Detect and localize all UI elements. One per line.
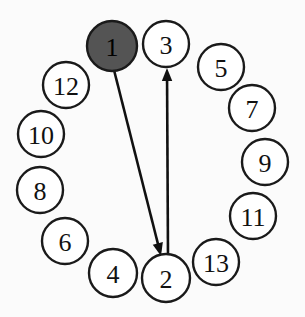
node-label: 13 [203, 249, 229, 278]
node-label: 2 [160, 265, 173, 294]
node-label: 11 [240, 203, 265, 232]
node-label: 5 [215, 54, 228, 83]
edge-1-to-2 [114, 70, 163, 256]
node-label: 4 [107, 260, 120, 289]
node-12[interactable]: 12 [43, 62, 89, 108]
node-2[interactable]: 2 [142, 254, 190, 302]
edges-layer [114, 68, 172, 256]
node-label: 6 [59, 228, 72, 257]
node-3[interactable]: 3 [143, 21, 189, 67]
node-13[interactable]: 13 [193, 239, 239, 285]
node-label: 7 [246, 95, 259, 124]
node-7[interactable]: 7 [229, 85, 275, 131]
node-8[interactable]: 8 [17, 167, 63, 213]
arrowhead-icon [162, 68, 172, 81]
node-10[interactable]: 10 [18, 111, 64, 157]
node-label: 3 [160, 31, 173, 60]
node-11[interactable]: 11 [230, 193, 276, 239]
node-ring-diagram: 12345678910111213 [0, 0, 305, 317]
node-1[interactable]: 1 [87, 21, 137, 71]
edge-line [167, 78, 168, 256]
node-label: 8 [34, 177, 47, 206]
node-9[interactable]: 9 [242, 139, 288, 185]
node-label: 1 [106, 33, 119, 62]
edge-line [114, 70, 159, 246]
node-5[interactable]: 5 [198, 44, 244, 90]
node-4[interactable]: 4 [89, 249, 137, 297]
edge-2-to-3 [162, 68, 172, 256]
node-label: 12 [53, 72, 79, 101]
node-6[interactable]: 6 [42, 218, 88, 264]
node-label: 9 [259, 149, 272, 178]
node-label: 10 [28, 121, 54, 150]
nodes-layer: 12345678910111213 [17, 21, 288, 302]
diagram-canvas: 12345678910111213 [0, 0, 305, 317]
